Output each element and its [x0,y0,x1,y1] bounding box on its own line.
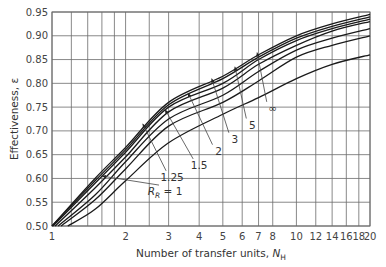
y-tick-label: 0.50 [26,221,48,232]
y-tick-label: 0.90 [26,30,48,41]
y-tick-label: 0.80 [26,78,48,89]
y-tick-label: 0.70 [26,125,48,136]
x-tick-label: 1 [49,231,55,242]
x-tick-label: 6 [239,231,245,242]
y-tick-label: 0.95 [26,7,48,18]
x-axis-label: Number of transfer units, NH [136,247,286,262]
y-tick-labels: 0.500.550.600.650.700.750.800.850.900.95 [26,7,48,232]
curves [52,14,370,226]
y-tick-label: 0.65 [26,149,48,160]
x-tick-label: 5 [220,231,226,242]
y-axis-label: Effectiveness, ε [8,78,20,160]
x-tick-label: 7 [255,231,261,242]
x-tick-label: 12 [309,231,322,242]
x-tick-label: 2 [122,231,128,242]
curve-15 [58,29,370,226]
y-tick-label: 0.75 [26,102,48,113]
curve-label: ∞ [268,102,277,114]
curve-label: 1.5 [191,159,208,171]
curve-label: 3 [232,133,239,145]
curve-label: RR = 1 [148,185,183,200]
x-tick-label: 16 [340,231,353,242]
x-tick-label: 3 [165,231,171,242]
curve-label: 1.25 [160,171,183,183]
effectiveness-chart: RR = 11.251.5235∞ 0.500.550.600.650.700.… [0,0,386,267]
curve-2 [55,22,370,226]
y-tick-label: 0.60 [26,173,48,184]
x-tick-label: 8 [270,231,276,242]
y-tick-label: 0.55 [26,197,48,208]
curve-label: 2 [215,145,222,157]
x-tick-label: 14 [326,231,339,242]
grid-lines [52,12,370,226]
leader-line [165,109,193,158]
x-tick-label: 10 [290,231,303,242]
x-tick-labels: 12345678101214161820 [49,231,377,242]
x-tick-label: 20 [364,231,377,242]
x-tick-label: 4 [196,231,202,242]
plot-frame [52,12,370,226]
y-tick-label: 0.85 [26,54,48,65]
curve-label: 5 [249,119,256,131]
